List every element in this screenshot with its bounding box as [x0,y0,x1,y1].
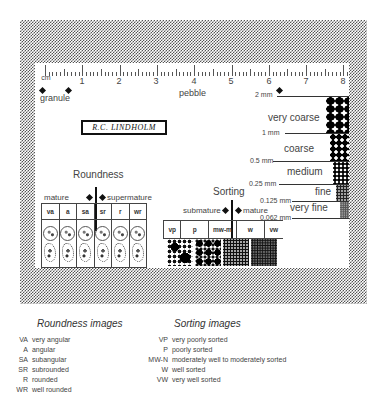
ruler-tick [112,72,113,76]
roundness-col-wr: wr [129,204,147,220]
ruler-tick [258,72,259,76]
ruler-tick [310,72,311,76]
ruler-tick [321,72,322,76]
diamond-marker-icon [276,87,283,94]
roundness-image-va [42,220,60,268]
ruler-tick [243,72,244,76]
grain-medium-sample [333,162,349,184]
ruler-tick [295,72,296,76]
arrow-left-icon [86,194,93,201]
roundness-title: Roundness [73,169,124,180]
class-coarse: coarse [284,143,314,154]
ruler-number-7: 7 [303,76,308,86]
pebble-label: pebble [179,88,206,98]
roundness-legend-title: Roundness images [37,318,123,329]
ruler-number-2: 2 [116,76,121,86]
sorting-col-vw: vw [264,221,283,239]
ruler-tick [93,72,94,76]
ruler-tick [232,65,233,76]
sorting-title: Sorting [213,186,245,197]
ruler-tick [198,72,199,76]
ruler-tick [123,72,124,76]
ruler-tick [287,69,288,76]
boundary-1mm: 1 mm [262,129,280,136]
ruler-tick [64,69,65,76]
ruler [35,63,349,76]
ruler-tick [314,72,315,76]
ruler-tick [101,69,102,76]
ruler-number-6: 6 [266,76,271,86]
ruler-tick [120,65,121,76]
boundary-0-062mm: 0.062 mm [260,214,291,221]
roundness-image-wr [129,220,147,268]
grain-coarse-sample [330,134,349,161]
ruler-tick [250,69,251,76]
ruler-tick [67,72,68,76]
sorting-images [167,239,287,268]
boundary-0-5mm: 0.5 mm [250,157,273,164]
ruler-tick [273,72,274,76]
sorting-col-w: w [237,221,265,239]
boundary-0-25mm: 0.25 mm [249,180,276,187]
ruler-tick [168,72,169,76]
ruler-tick [213,69,214,76]
ruler-number-1: 1 [79,76,84,86]
ruler-tick [97,72,98,76]
ruler-tick [325,69,326,76]
grain-very-fine-sample [340,202,349,218]
ruler-tick [280,72,281,76]
class-very-fine: very fine [290,202,328,213]
signature-box: R.C. LINDHOLM [81,120,167,135]
ruler-tick [90,72,91,76]
ruler-tick [205,72,206,76]
ruler-tick [187,72,188,76]
ruler-tick [131,72,132,76]
ruler-tick [127,72,128,76]
ruler-tick [75,72,76,76]
ruler-tick [299,72,300,76]
ruler-tick [142,72,143,76]
ruler-tick [86,72,87,76]
ruler-unit: cm [41,74,50,81]
roundness-image-a [59,220,77,268]
ruler-number-3: 3 [153,76,158,86]
roundness-supermature-label: supermature [107,193,152,202]
class-very-coarse: very coarse [268,112,320,123]
ruler-tick [60,72,61,76]
ruler-tick [164,72,165,76]
boundary-0-125mm: 0.125 mm [260,197,291,204]
ruler-tick [317,72,318,76]
roundness-col-sr: sr [94,204,112,220]
ruler-tick [284,72,285,76]
ruler-tick [135,72,136,76]
sorting-image-vp [167,239,193,266]
ruler-tick [82,65,83,76]
ruler-tick [183,72,184,76]
ruler-tick [179,72,180,76]
sorting-image-w [251,239,277,266]
roundness-col-va: va [42,204,60,220]
grain-size-comparator-card: cm 1 2 3 4 5 6 7 8 granule pebble R.C. L… [35,63,349,268]
arrow-right-icon [235,207,242,214]
ruler-tick [194,65,195,76]
ruler-tick [149,72,150,76]
sorting-legend-title: Sorting images [174,318,241,329]
ruler-tick [269,65,270,76]
roundness-image-r [112,220,130,268]
sorting-col-p: p [181,221,209,239]
ruler-number-4: 4 [191,76,196,86]
ruler-tick [172,72,173,76]
sorting-col-vp: vp [164,221,181,239]
ruler-tick [291,72,292,76]
ruler-tick [176,69,177,76]
boundary-line [292,218,349,219]
ruler-tick [235,72,236,76]
class-medium: medium [287,166,323,177]
ruler-tick [108,72,109,76]
ruler-tick [276,72,277,76]
roundness-table: va a sa sr r wr [41,203,147,268]
roundness-col-sa: sa [77,204,95,220]
ruler-tick [157,65,158,76]
class-fine: fine [315,186,331,197]
ruler-number-5: 5 [228,76,233,86]
